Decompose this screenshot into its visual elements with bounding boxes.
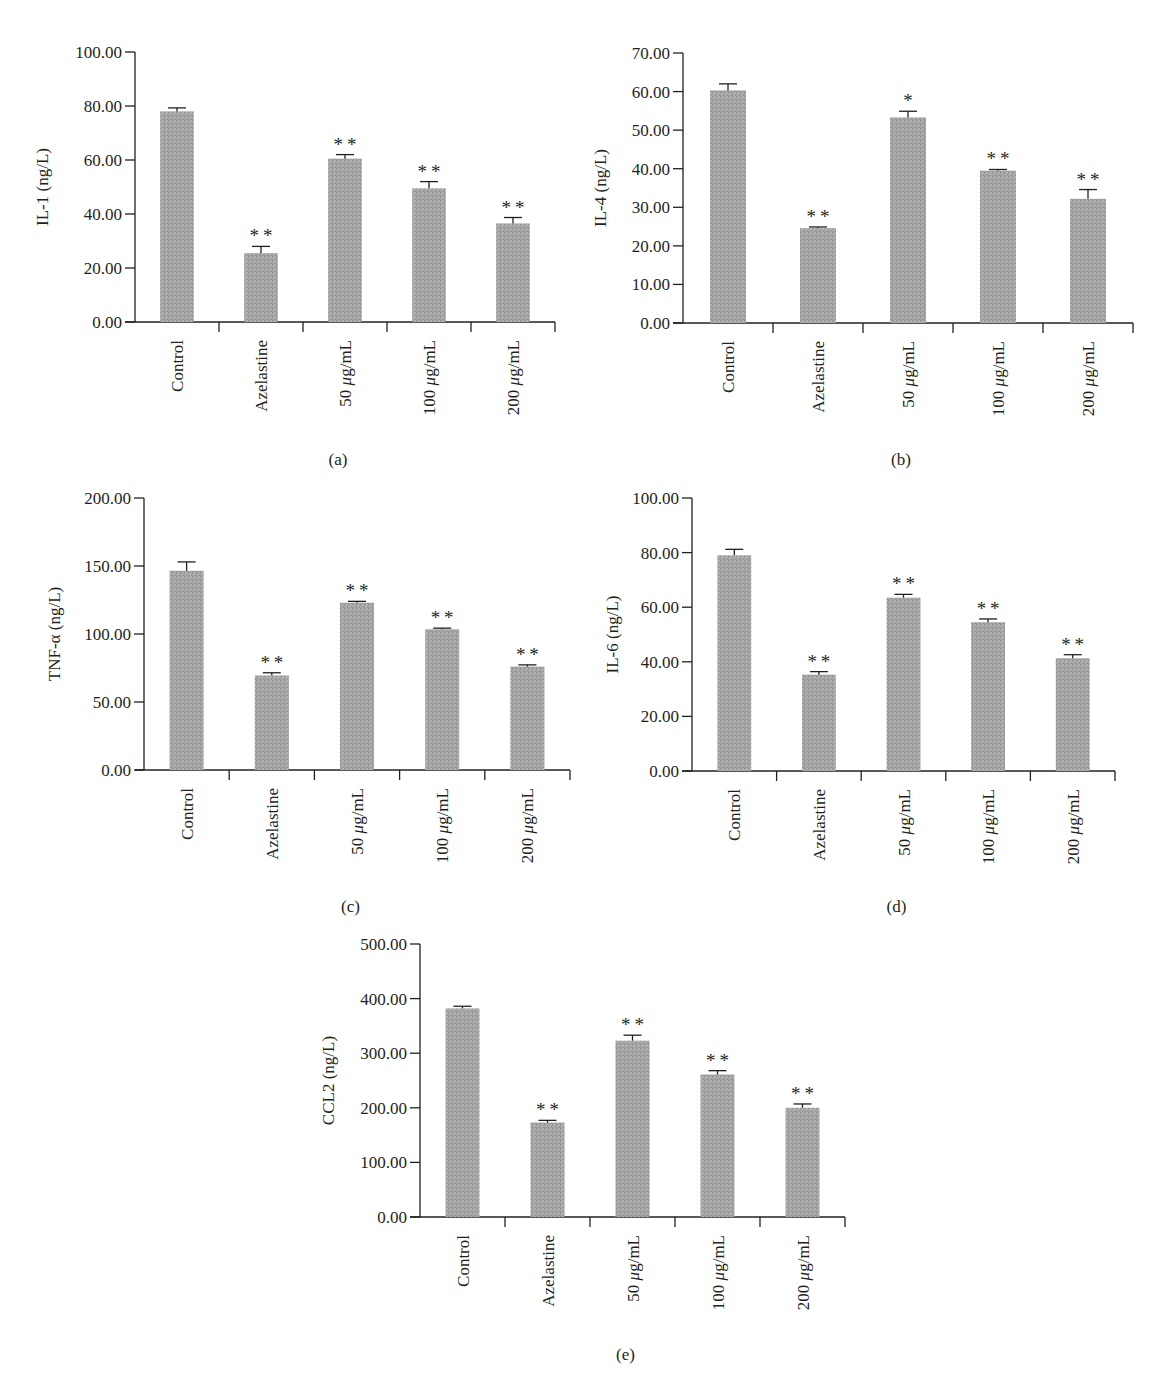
y-tick-label: 200.00 xyxy=(360,1099,407,1118)
y-tick-label: 300.00 xyxy=(360,1044,407,1063)
y-tick-label: 400.00 xyxy=(360,990,407,1009)
y-tick-label: 0.00 xyxy=(377,1208,407,1227)
x-category-label: 200 μg/mL xyxy=(794,1235,813,1310)
y-tick-label: 500.00 xyxy=(360,935,407,954)
significance-marker: * * xyxy=(621,1014,644,1035)
bar-2 xyxy=(616,1041,650,1217)
x-category-label: 50 μg/mL xyxy=(624,1235,643,1302)
chart-svg-e: 0.00100.00200.00300.00400.00500.00CCL2 (… xyxy=(0,0,1155,1391)
significance-marker: * * xyxy=(536,1099,559,1120)
significance-marker: * * xyxy=(791,1083,814,1104)
bar-4 xyxy=(786,1108,820,1217)
bar-0 xyxy=(446,1008,480,1217)
x-category-label: Azelastine xyxy=(539,1235,558,1307)
chart-panel-e: 0.00100.00200.00300.00400.00500.00CCL2 (… xyxy=(0,0,1155,1391)
bar-3 xyxy=(701,1074,735,1217)
significance-marker: * * xyxy=(706,1050,729,1071)
x-category-label: 100 μg/mL xyxy=(709,1235,728,1310)
panel-caption: (e) xyxy=(616,1345,635,1364)
y-tick-label: 100.00 xyxy=(360,1153,407,1172)
bar-1 xyxy=(531,1123,565,1217)
y-axis-label: CCL2 (ng/L) xyxy=(319,1036,338,1125)
x-category-label: Control xyxy=(454,1235,473,1287)
